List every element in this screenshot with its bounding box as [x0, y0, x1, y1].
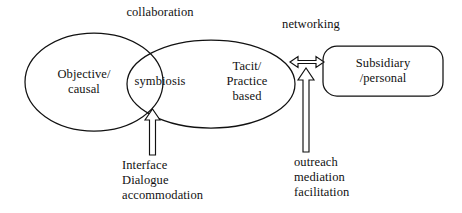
label-symbiosis: symbiosis [135, 74, 186, 89]
label-collaboration: collaboration [126, 5, 193, 20]
label-networking: networking [282, 17, 340, 32]
arrow-outreach-mediation-facilitation [298, 68, 314, 152]
label-objective-causal: Objective/ causal [57, 67, 110, 97]
label-tacit-practice-based: Tacit/ Practice based [226, 59, 267, 103]
arrow-interface-dialogue-accommodation [145, 109, 160, 155]
diagram-canvas: collaboration networking Objective/ caus… [0, 0, 462, 213]
label-interface-dialogue-accommodation: Interface Dialogue accommodation [122, 158, 203, 202]
label-subsidiary-personal: Subsidiary /personal [356, 56, 410, 86]
diagram-graphics [0, 0, 462, 213]
arrow-networking-bidirectional [290, 57, 324, 68]
label-outreach-mediation-facilitation: outreach mediation facilitation [294, 155, 349, 199]
